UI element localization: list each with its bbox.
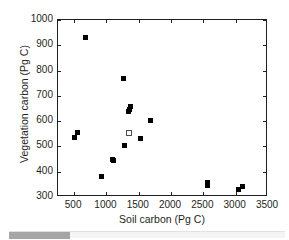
y-tick-label: 500 (10, 139, 53, 150)
data-point-model (148, 118, 153, 123)
y-tick-label: 900 (10, 38, 53, 49)
data-point-observation (126, 130, 132, 136)
data-point-model (240, 184, 245, 189)
data-point-model (75, 130, 80, 135)
data-point-model (111, 158, 116, 163)
data-point-model (99, 174, 104, 179)
data-point-model (205, 180, 210, 185)
scatter-marker-layer (58, 20, 266, 195)
y-tick-label: 800 (10, 64, 53, 75)
y-tick-label: 700 (10, 89, 53, 100)
horizontal-scrollbar-track[interactable] (9, 231, 285, 238)
figure-root: Vegetation carbon (Pg C) Soil carbon (Pg… (0, 0, 289, 240)
data-point-model (128, 104, 133, 109)
x-axis-title: Soil carbon (Pg C) (57, 213, 267, 225)
y-tick-label: 400 (10, 165, 53, 176)
data-point-model (122, 143, 127, 148)
data-point-model (138, 136, 143, 141)
data-point-model (83, 35, 88, 40)
x-tick-label: 3500 (247, 199, 287, 210)
y-tick-label: 1000 (10, 13, 53, 24)
plot-area (57, 19, 267, 196)
horizontal-scrollbar-thumb[interactable] (9, 232, 70, 239)
data-point-model (121, 76, 126, 81)
data-point-model (72, 135, 77, 140)
y-tick-label: 300 (10, 190, 53, 201)
y-tick-label: 600 (10, 114, 53, 125)
